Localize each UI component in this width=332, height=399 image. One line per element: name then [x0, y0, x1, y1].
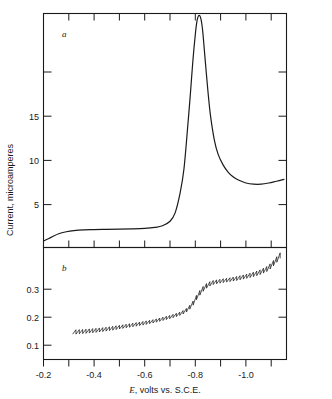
panel-b-ytick-02: 0.2	[26, 313, 39, 323]
panel-b-right-ticks	[279, 289, 287, 317]
panel-b-frame	[44, 248, 287, 360]
xtick-label-0: -0.2	[36, 370, 52, 380]
panel-a-ytick-5: 5	[34, 200, 39, 210]
panel-b-letter: b	[62, 263, 67, 273]
polarogram-figure: 15 10 5 a 0.3 0.2 0.1 -0.2 -0.4	[0, 0, 332, 399]
panel-a-y-ticks	[44, 72, 52, 205]
xtick-label-4: -0.6	[137, 370, 153, 380]
panel-b-ytick-01: 0.1	[26, 341, 39, 351]
panel-a-curve	[44, 15, 284, 241]
panel-b-oscillating-trace	[73, 253, 281, 334]
panel-b-y-ticks	[44, 289, 52, 345]
panel-b-ytick-03: 0.3	[26, 285, 39, 295]
panel-a-letter: a	[62, 29, 67, 39]
panel-a-top-ticks	[69, 14, 271, 21]
panel-a-bottom-ticks	[69, 241, 271, 248]
xtick-label-8: -1.0	[238, 370, 254, 380]
panel-a-ytick-15: 15	[29, 112, 39, 122]
x-axis-label: E, volts vs. S.C.E.	[128, 385, 201, 395]
y-axis-label: Current, microamperes	[5, 143, 15, 236]
x-axis-label-rest: , volts vs. S.C.E.	[135, 385, 201, 395]
xtick-label-6: -0.8	[188, 370, 204, 380]
panel-b-x-ticks	[44, 360, 272, 367]
panel-a-right-ticks	[279, 72, 287, 205]
xtick-label-2: -0.4	[86, 370, 102, 380]
panel-a-frame	[44, 14, 287, 248]
panel-a-ytick-10: 10	[29, 156, 39, 166]
